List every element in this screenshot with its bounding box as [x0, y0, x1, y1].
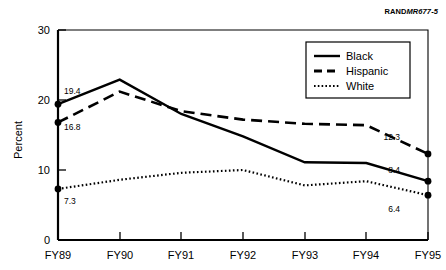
endpoint-marker-hispanic [425, 151, 432, 158]
data-label-black-start: 19.4 [64, 86, 81, 96]
data-label-hispanic-start: 16.8 [64, 122, 81, 132]
x-tick-label-fy91: FY91 [168, 249, 194, 261]
endpoint-marker-black [425, 178, 432, 185]
endpoint-marker-black [55, 101, 62, 108]
source-tag: RANDMR677-5 [384, 7, 438, 16]
source-tag-prefix: RAND [384, 7, 406, 16]
x-tick-label-fy94: FY94 [353, 249, 379, 261]
x-tick-label-fy92: FY92 [230, 249, 256, 261]
legend-label-hispanic: Hispanic [346, 65, 389, 77]
y-tick-label-20: 20 [38, 94, 50, 106]
endpoint-marker-white [425, 192, 432, 199]
data-label-black-end: 8.4 [388, 165, 400, 175]
legend-label-white: White [346, 80, 374, 92]
x-tick-label-fy95: FY95 [415, 249, 441, 261]
chart-legend: Black Hispanic White [306, 42, 410, 98]
data-label-white-start: 7.3 [64, 196, 76, 206]
y-tick-label-30: 30 [38, 24, 50, 36]
line-chart-plot: 0 10 20 30 Percent FY89 FY90 FY91 FY92 F… [0, 0, 446, 270]
y-axis-ticks [58, 30, 66, 240]
data-label-hispanic-end: 12.3 [383, 132, 400, 142]
chart-figure: RANDMR677-5 0 10 20 30 Percent [0, 0, 446, 270]
series-line-white [58, 170, 428, 195]
data-label-white-end: 6.4 [388, 204, 400, 214]
x-axis-ticks [58, 232, 428, 240]
x-tick-label-fy90: FY90 [107, 249, 133, 261]
y-axis-title: Percent [12, 121, 24, 159]
y-tick-label-0: 0 [44, 234, 50, 246]
legend-label-black: Black [346, 50, 373, 62]
y-tick-label-10: 10 [38, 164, 50, 176]
endpoint-marker-white [55, 186, 62, 193]
x-tick-label-fy89: FY89 [45, 249, 71, 261]
source-tag-code: MR677-5 [406, 7, 438, 16]
endpoint-marker-hispanic [55, 119, 62, 126]
series-line-hispanic [58, 92, 428, 154]
x-tick-label-fy93: FY93 [292, 249, 318, 261]
